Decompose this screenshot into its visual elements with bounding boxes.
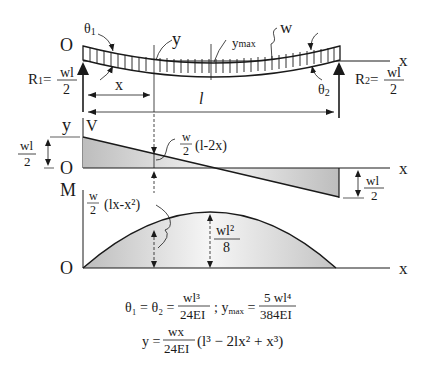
svg-text:5 wl⁴: 5 wl⁴ (264, 290, 292, 305)
shear-diagram: y V x O wl 2 wl 2 w (18, 114, 408, 203)
svg-text:θ₁ = θ₂ =: θ₁ = θ₂ = (125, 300, 175, 315)
theta1-label: θ1 (84, 21, 96, 37)
svg-text:24EI: 24EI (180, 307, 205, 322)
shear-v-label: V (86, 117, 98, 134)
shear-right-magnitude: wl 2 (364, 173, 384, 203)
reaction-r1-label: R1= wl 2 (28, 65, 77, 97)
load-w-label: w (280, 18, 293, 37)
theta1-leader-top (98, 34, 113, 51)
shear-formula: w 2 (l-2x) (180, 130, 227, 158)
svg-text:(lx-x²): (lx-x²) (104, 197, 140, 213)
svg-text:2: 2 (371, 188, 378, 203)
svg-text:wl: wl (387, 65, 401, 80)
svg-text:wl²: wl² (216, 223, 234, 238)
reaction-r1-arrowhead (77, 62, 89, 75)
moment-x-axis-label: x (399, 259, 408, 278)
beam-origin-label: O (60, 35, 73, 55)
theta2-label: θ2 (318, 82, 330, 98)
moment-diagram: M x O w 2 (lx-x²) wl² 8 (60, 171, 408, 278)
svg-text:y =: y = (142, 334, 161, 349)
shear-origin-label: O (60, 158, 73, 178)
svg-text:2: 2 (90, 203, 96, 217)
shear-y-label: y (62, 115, 71, 135)
svg-text:wx: wx (168, 324, 184, 339)
y-leader (156, 40, 172, 60)
load-leader (271, 28, 277, 60)
equations: θ₁ = θ₂ = wl³ 24EI ; ymax = 5 wl⁴ 384EI … (125, 290, 296, 356)
svg-text:24EI: 24EI (164, 341, 189, 356)
svg-text:; ymax =: ; ymax = (214, 300, 255, 316)
svg-text:2: 2 (24, 154, 31, 169)
svg-text:R1=: R1= (28, 71, 51, 87)
svg-text:wl: wl (20, 138, 33, 153)
equation-deflection: y = wx 24EI (l³ − 2lx² + x³) (142, 324, 283, 356)
equation-slope-deflection-max: θ₁ = θ₂ = wl³ 24EI ; ymax = 5 wl⁴ 384EI (125, 290, 296, 322)
deflection-y-label: y (172, 29, 181, 49)
svg-text:2: 2 (63, 82, 70, 97)
svg-text:wl³: wl³ (183, 290, 200, 305)
svg-text:8: 8 (223, 240, 230, 255)
moment-origin-label: O (60, 258, 73, 278)
shear-left-magnitude: wl 2 (18, 138, 36, 169)
theta1-leader-bottom (100, 66, 113, 80)
moment-m-label: M (60, 180, 76, 200)
svg-text:(l-2x): (l-2x) (195, 138, 227, 154)
ymax-label: ymax (232, 35, 256, 50)
svg-text:2: 2 (183, 144, 189, 158)
dim-span-label: l (199, 90, 204, 107)
shear-x-axis-label: x (399, 159, 408, 178)
ymax-leader (214, 40, 226, 62)
theta2-leader-bottom (312, 66, 322, 80)
svg-text:w: w (89, 189, 98, 203)
svg-text:R2=: R2= (355, 71, 378, 87)
moment-formula: w 2 (lx-x²) (87, 189, 140, 217)
reaction-r2-arrowhead (333, 62, 345, 75)
svg-text:wl: wl (60, 65, 74, 80)
beam-diagram: x O (0, 0, 430, 378)
svg-text:2: 2 (390, 82, 397, 97)
svg-text:(l³ − 2lx² + x³): (l³ − 2lx² + x³) (197, 333, 283, 350)
svg-text:w: w (182, 130, 191, 144)
beam-section: x O (28, 18, 408, 118)
theta2-leader-top (311, 33, 318, 50)
dim-x-label: x (115, 76, 123, 93)
svg-text:384EI: 384EI (260, 307, 292, 322)
svg-text:wl: wl (366, 173, 379, 188)
reaction-r2-label: R2= wl 2 (355, 65, 404, 97)
